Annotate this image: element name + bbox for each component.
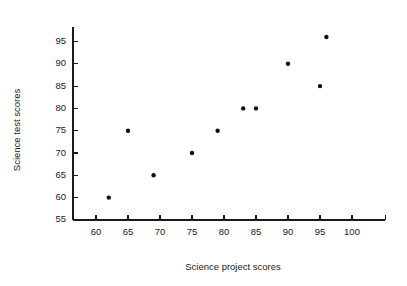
data-point [151,173,155,177]
y-tick-label: 95 [55,35,66,46]
y-tick-label: 65 [55,169,66,180]
scatter-chart: 556065707580859095 6065707580859095100 S… [0,0,407,286]
x-tick-label: 90 [283,226,294,237]
plot-area: 556065707580859095 6065707580859095100 S… [0,0,407,286]
x-tick-label: 70 [155,226,166,237]
data-point [324,35,328,39]
x-axis-title: Science project scores [185,261,281,272]
x-tick-label: 65 [123,226,134,237]
x-tick-label: 60 [91,226,102,237]
data-point [107,195,111,199]
axes [73,27,385,220]
data-point [254,106,258,110]
y-tick-label: 75 [55,124,66,135]
x-tick-label: 75 [187,226,198,237]
x-tick-label: 100 [344,226,360,237]
y-tick-label: 80 [55,102,66,113]
x-tick-label: 80 [219,226,230,237]
data-point [190,151,194,155]
y-tick-label: 70 [55,147,66,158]
y-tick-label: 90 [55,57,66,68]
data-points [107,35,329,200]
x-axis-ticks: 6065707580859095100 [91,215,360,237]
x-tick-label: 85 [251,226,262,237]
data-point [286,62,290,66]
data-point [241,106,245,110]
data-point [318,84,322,88]
x-tick-label: 95 [315,226,326,237]
data-point [126,129,130,133]
y-tick-label: 85 [55,80,66,91]
y-axis-ticks: 556065707580859095 [55,35,78,224]
y-axis-title: Science test scores [11,89,22,172]
y-tick-label: 60 [55,191,66,202]
data-point [215,129,219,133]
y-tick-label: 55 [55,213,66,224]
